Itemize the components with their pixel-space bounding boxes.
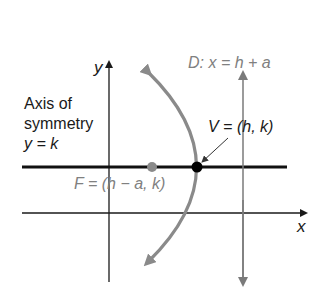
vertex-point bbox=[192, 162, 203, 173]
axis-of-symmetry-equation: y = k bbox=[23, 135, 59, 152]
parabola-diagram: y x Axis of symmetry y = k D: x = h + a … bbox=[0, 0, 334, 297]
axis-of-symmetry-label-2: symmetry bbox=[24, 115, 93, 132]
y-axis-label: y bbox=[93, 58, 104, 77]
x-axis-label: x bbox=[296, 217, 306, 236]
vertex-label: V = (h, k) bbox=[208, 118, 273, 135]
focus-point bbox=[147, 162, 157, 172]
directrix-label: D: x = h + a bbox=[188, 54, 271, 71]
axis-of-symmetry-label-1: Axis of bbox=[24, 95, 73, 112]
focus-label: F = (h − a, k) bbox=[74, 175, 165, 192]
vertex-pointer bbox=[202, 138, 228, 162]
